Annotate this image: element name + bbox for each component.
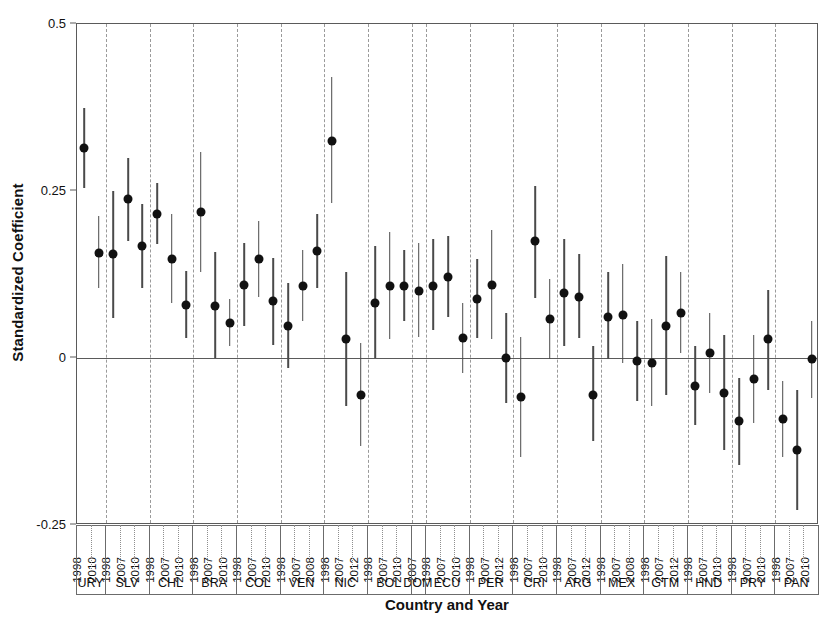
data-point[interactable] [283,321,292,330]
group-separator-line [426,24,427,523]
year-cell-divider [483,525,484,571]
year-cell-divider [163,525,164,571]
country-cell-divider [367,571,368,595]
group-separator-line [281,24,282,523]
data-point[interactable] [720,388,729,397]
data-point[interactable] [80,143,89,152]
data-point[interactable] [604,312,613,321]
group-separator-line [324,24,325,523]
y-axis-tick-label: 0.25 [41,183,66,198]
data-point[interactable] [327,136,336,145]
data-point[interactable] [691,382,700,391]
year-cell-divider [527,525,528,571]
data-point[interactable] [298,281,307,290]
year-label-cell: 2010 [803,525,818,571]
data-point[interactable] [313,247,322,256]
y-axis-title: Standardized Coefficient [2,0,32,545]
y-axis-tick-mark [70,357,76,358]
data-point[interactable] [109,250,118,259]
country-label-bra: BRA [192,571,236,595]
country-cell-divider [280,571,281,595]
year-cell-divider [280,525,281,571]
data-point[interactable] [647,359,656,368]
year-cell-divider [178,525,179,571]
data-point[interactable] [705,348,714,357]
year-label-band: 1998201019982007201019982007201019982007… [76,525,818,571]
data-point[interactable] [414,287,423,296]
country-cell-divider [149,571,150,595]
year-cell-divider [745,525,746,571]
data-point[interactable] [807,355,816,364]
year-cell-divider [512,525,513,571]
year-cell-divider [91,525,92,571]
country-label-chl: CHL [149,571,193,595]
data-point[interactable] [531,237,540,246]
year-cell-divider [556,525,557,571]
country-cell-divider [556,571,557,595]
data-point[interactable] [211,301,220,310]
country-label-nic: NIC [323,571,367,595]
data-point[interactable] [269,297,278,306]
data-point[interactable] [633,357,642,366]
data-point[interactable] [182,300,191,309]
data-point[interactable] [473,295,482,304]
group-separator-line [557,24,558,523]
data-point[interactable] [196,208,205,217]
data-point[interactable] [342,335,351,344]
data-point[interactable] [429,281,438,290]
country-label-ven: VEN [280,571,324,595]
data-point[interactable] [240,280,249,289]
group-separator-line [412,24,413,523]
data-point[interactable] [371,298,380,307]
country-label-slv: SLV [105,571,149,595]
year-cell-divider [789,525,790,571]
data-point[interactable] [487,280,496,289]
data-point[interactable] [516,392,525,401]
data-point[interactable] [589,390,598,399]
data-point[interactable] [618,310,627,319]
data-point[interactable] [153,209,162,218]
y-axis-tick-mark [70,190,76,191]
chart-figure: Standardized Coefficient 0.50.250-0.25 1… [0,0,833,633]
data-point[interactable] [560,288,569,297]
year-cell-divider [411,525,412,571]
year-cell-divider [760,525,761,571]
data-point[interactable] [254,255,263,264]
data-point[interactable] [123,195,132,204]
year-cell-divider [382,525,383,571]
data-point[interactable] [778,415,787,424]
data-point[interactable] [458,333,467,342]
country-cell-divider [512,571,513,595]
data-point[interactable] [676,308,685,317]
data-point[interactable] [94,249,103,258]
year-cell-divider [149,525,150,571]
data-point[interactable] [793,446,802,455]
year-cell-divider [818,525,819,571]
data-point[interactable] [662,321,671,330]
y-axis-tick-mark [70,23,76,24]
country-label-pry: PRY [731,571,775,595]
country-cell-divider [425,571,426,595]
y-axis-tick-label: -0.25 [36,517,66,532]
data-point[interactable] [167,255,176,264]
data-point[interactable] [138,241,147,250]
country-cell-divider [687,571,688,595]
data-point[interactable] [225,319,234,328]
data-point[interactable] [502,354,511,363]
data-point[interactable] [385,281,394,290]
data-point[interactable] [444,272,453,281]
country-label-ury: URY [76,571,105,595]
country-cell-divider [236,571,237,595]
year-cell-divider [585,525,586,571]
country-label-col: COL [236,571,280,595]
country-label-ecu: ECU [425,571,469,595]
country-cell-divider [323,571,324,595]
data-point[interactable] [545,315,554,324]
year-cell-divider [498,525,499,571]
data-point[interactable] [734,417,743,426]
data-point[interactable] [400,281,409,290]
data-point[interactable] [764,335,773,344]
data-point[interactable] [356,390,365,399]
data-point[interactable] [574,292,583,301]
data-point[interactable] [749,375,758,384]
